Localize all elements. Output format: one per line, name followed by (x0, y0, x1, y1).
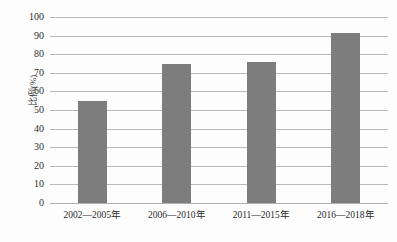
y-axis-tick-label: 60 (8, 86, 44, 96)
bar (247, 62, 276, 203)
bar (162, 64, 191, 204)
y-axis-tick-label: 10 (8, 179, 44, 189)
y-axis-tick-label: 30 (8, 142, 44, 152)
y-axis-tick-label: 50 (8, 105, 44, 115)
y-axis-tick-label: 100 (8, 12, 44, 22)
plot-area (50, 17, 388, 203)
gridline (50, 203, 388, 204)
y-axis-tick-label: 90 (8, 31, 44, 41)
gridline (50, 17, 388, 18)
x-axis-tick-label: 2016—2018年 (291, 207, 397, 221)
bar-chart: 比例(%) 0102030405060708090100 2002—2005年2… (0, 0, 397, 242)
y-axis-tick-label: 20 (8, 161, 44, 171)
y-axis-tick-label: 70 (8, 68, 44, 78)
bar (78, 101, 107, 203)
y-axis-tick-label: 80 (8, 49, 44, 59)
bar (331, 33, 360, 203)
y-axis-tick-label: 40 (8, 124, 44, 134)
